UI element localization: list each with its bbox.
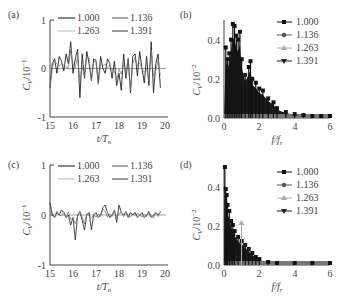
ytick: 0 — [41, 63, 46, 74]
chart-c: (c) 1 0 -1 15 16 17 18 19 20 t/Tn CV/10−… — [0, 150, 172, 300]
xtick: 20 — [160, 268, 170, 279]
ytick: 0.2 — [208, 74, 221, 85]
legend-item: 1.263 — [77, 173, 100, 184]
chart-d: (d) 0.0 0.2 0.4 0 2 4 6 f/fr CV/10−2 1.0… — [172, 150, 344, 300]
legend-item: 1.136 — [296, 29, 319, 40]
x-axis-label: f/fr — [271, 134, 282, 147]
legend-item: 1.000 — [77, 12, 100, 23]
chart-b: (b) 0.0 0.2 0.4 0 2 4 6 f/fr CV/10−2 1.0… — [172, 0, 344, 150]
ytick: 0.4 — [208, 35, 221, 46]
y-axis-label: CV/10−1 — [20, 59, 34, 91]
legend: 1.000 1.136 1.263 1.391 — [58, 160, 153, 184]
legend-item: 1.136 — [296, 179, 319, 190]
panel-label: (d) — [180, 159, 192, 171]
panel-label: (b) — [180, 9, 192, 21]
legend-item: 1.000 — [77, 160, 100, 171]
legend-item: 1.000 — [296, 16, 319, 27]
xtick: 16 — [68, 268, 78, 279]
ytick: 0.2 — [208, 221, 221, 232]
xtick: 19 — [137, 268, 147, 279]
xtick: 2 — [257, 121, 262, 132]
xtick: 6 — [328, 121, 333, 132]
legend: 1.000 1.136 1.263 1.391 — [277, 16, 319, 66]
legend: 1.000 1.136 1.263 1.391 — [277, 166, 319, 216]
panel-d: (d) 0.0 0.2 0.4 0 2 4 6 f/fr CV/10−2 1.0… — [172, 150, 344, 300]
triangle-up-marker — [239, 220, 245, 225]
panel-label: (c) — [8, 159, 19, 171]
xtick: 15 — [45, 120, 55, 131]
xtick: 18 — [114, 268, 124, 279]
series-line — [50, 42, 160, 98]
xtick: 0 — [222, 268, 227, 279]
xtick: 18 — [114, 120, 124, 131]
x-axis-label: t/Tn — [97, 281, 112, 294]
xtick: 0 — [222, 121, 227, 132]
xtick: 4 — [293, 268, 298, 279]
ytick: 1 — [41, 160, 46, 171]
xtick: 17 — [91, 268, 101, 279]
xtick: 20 — [160, 120, 170, 131]
xtick: 17 — [91, 120, 101, 131]
chart-a: (a) 1 0 -1 15 16 17 18 19 20 t/Tn CV/10−… — [0, 0, 172, 150]
legend-item: 1.263 — [77, 25, 100, 36]
legend: 1.000 1.136 1.263 1.391 — [58, 12, 153, 36]
ytick: 0.0 — [208, 260, 221, 271]
y-axis-label: CV/10−2 — [190, 64, 204, 96]
xtick: 16 — [68, 120, 78, 131]
panel-label: (a) — [8, 9, 19, 21]
panel-a: (a) 1 0 -1 15 16 17 18 19 20 t/Tn CV/10−… — [0, 0, 172, 150]
ytick: 0 — [41, 210, 46, 221]
x-axis-label: f/fr — [271, 281, 282, 294]
xtick: 15 — [45, 268, 55, 279]
xtick: 6 — [328, 268, 333, 279]
xtick: 2 — [257, 268, 262, 279]
legend-item: 1.391 — [296, 55, 319, 66]
y-axis-label: CV/10−1 — [20, 204, 34, 236]
ytick: 0.0 — [208, 113, 221, 124]
legend-item: 1.391 — [130, 173, 153, 184]
legend-item: 1.391 — [130, 25, 153, 36]
y-axis-label: CV/10−2 — [190, 209, 204, 241]
xtick: 4 — [293, 121, 298, 132]
series-line — [50, 203, 160, 241]
legend-item: 1.000 — [296, 166, 319, 177]
legend-item: 1.136 — [130, 12, 153, 23]
x-axis-label: t/Tn — [97, 133, 112, 146]
ytick: 0.4 — [208, 182, 221, 193]
legend-item: 1.136 — [130, 160, 153, 171]
legend-item: 1.391 — [296, 205, 319, 216]
xtick: 19 — [137, 120, 147, 131]
ytick: 1 — [41, 15, 46, 26]
legend-item: 1.263 — [296, 192, 319, 203]
panel-b: (b) 0.0 0.2 0.4 0 2 4 6 f/fr CV/10−2 1.0… — [172, 0, 344, 150]
panel-c: (c) 1 0 -1 15 16 17 18 19 20 t/Tn CV/10−… — [0, 150, 172, 300]
legend-item: 1.263 — [296, 42, 319, 53]
